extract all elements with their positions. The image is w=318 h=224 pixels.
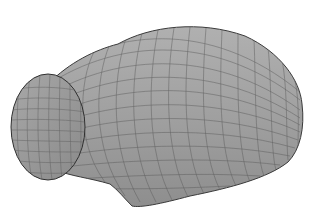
mesh-render <box>0 0 318 224</box>
end-cap <box>11 74 85 180</box>
